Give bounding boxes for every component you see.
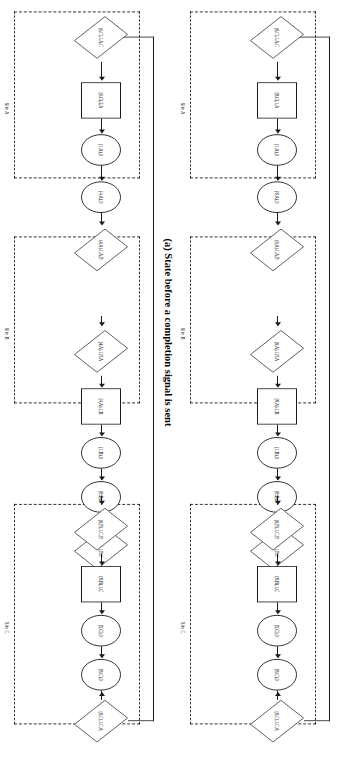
node-label: (6,C),1,A,C — [78, 13, 124, 62]
node-b-circle-1: (1,B),0 — [257, 437, 297, 468]
node-label: (8,C),1,A,C — [254, 13, 300, 62]
node-c-exit-diamond: (8,C),1,C,A — [78, 696, 124, 745]
node-a-circle-2: (4,A),0 — [81, 181, 121, 212]
node-c-rect: (8,B),1,C — [257, 566, 297, 602]
node-a-rect: (6,C),2,A — [81, 82, 121, 118]
edge-arrow — [275, 76, 281, 80]
edge-arrow — [275, 432, 281, 436]
edge-arrow — [275, 383, 281, 387]
edge-arrow — [99, 76, 105, 80]
node-b-entry-diamond: (4,A),1,B,A — [78, 326, 124, 375]
node-a-circle-1: (1,A),0 — [81, 134, 121, 165]
node-a-entry-diamond: (8,C),1,A,C — [254, 13, 300, 62]
edge-arrow — [275, 476, 281, 480]
edge-arrow — [275, 500, 281, 504]
node-b-rect: (4,A),1,B — [81, 388, 121, 424]
node-c-entry-diamond: (8,B),1,C,B — [78, 504, 124, 553]
node-label: (8,C),1,C,A — [78, 696, 124, 745]
node-c-circle-1: (5,C),0 — [81, 614, 121, 645]
node-a-rect: (8,C),1,A — [257, 82, 297, 118]
site-c-label: Site C — [180, 622, 186, 634]
site-c-label: Site C — [4, 622, 10, 634]
figure-canvas: Site A Site B Site C (8,C),1,A,C (8,C),1… — [0, 0, 342, 771]
edge-arrow — [99, 432, 105, 436]
node-a-entry-diamond: (6,C),1,A,C — [78, 13, 124, 62]
edge-arrow — [99, 322, 105, 326]
state-diagram-bottom: Site A Site B Site C (6,C),1,A,C (6,C),2… — [0, 0, 160, 771]
state-diagram-top: Site A Site B Site C (8,C),1,A,C (8,C),1… — [176, 0, 336, 771]
node-label: (4,A),1,A,B — [78, 225, 124, 274]
node-c-circle-1: (5,C),0 — [257, 614, 297, 645]
edge-arrow — [275, 692, 281, 696]
edge-arrow — [275, 129, 281, 133]
feedback-loop-right — [128, 720, 154, 721]
figure-caption: (a) State before a completion signal is … — [163, 238, 174, 426]
node-label: (8,B),1,C,B — [254, 504, 300, 553]
node-b-rect: (8,A),1,B — [257, 388, 297, 424]
node-a-exit-diamond: (8,A),1,A,B — [254, 225, 300, 274]
node-b-entry-diamond: (8,A),1,B,A — [254, 326, 300, 375]
edge-arrow — [99, 500, 105, 504]
site-a-label: Site A — [180, 102, 186, 114]
edge-arrow — [275, 322, 281, 326]
edge-arrow — [99, 129, 105, 133]
node-c-entry-diamond: (8,B),1,C,B — [254, 504, 300, 553]
edge-arrow — [99, 176, 105, 180]
node-c-exit-diamond: (8,C),1,C,A — [254, 696, 300, 745]
node-label: (8,C),1,C,A — [254, 696, 300, 745]
node-a-circle-1: (1,A),0 — [257, 134, 297, 165]
feedback-loop-top — [153, 36, 154, 720]
node-label: (4,A),1,B,A — [78, 326, 124, 375]
edge-arrow — [275, 610, 281, 614]
edge-arrow — [99, 561, 105, 565]
node-c-circle-2: (8,C),0 — [257, 658, 297, 689]
edge-arrow — [99, 692, 105, 696]
edge-arrow — [275, 654, 281, 658]
node-c-rect: (8,B),1,C — [81, 566, 121, 602]
node-b-circle-1: (1,B),0 — [81, 437, 121, 468]
edge-arrow — [99, 221, 105, 225]
node-label: (8,A),1,A,B — [254, 225, 300, 274]
node-label: (8,A),1,B,A — [254, 326, 300, 375]
node-a-exit-diamond: (4,A),1,A,B — [78, 225, 124, 274]
edge-arrow — [99, 476, 105, 480]
edge-arrow — [99, 383, 105, 387]
node-c-circle-2: (8,C),0 — [81, 658, 121, 689]
feedback-loop-top — [329, 36, 330, 720]
site-a-label: Site A — [4, 102, 10, 114]
edge-arrow — [99, 610, 105, 614]
edge-arrow — [99, 654, 105, 658]
edge-arrow — [275, 176, 281, 180]
node-label: (8,B),1,C,B — [78, 504, 124, 553]
edge-arrow — [275, 221, 281, 225]
feedback-loop-right — [304, 720, 330, 721]
node-a-circle-2: (8,A),0 — [257, 181, 297, 212]
edge-arrow — [275, 561, 281, 565]
site-b-label: Site B — [180, 327, 186, 339]
site-b-label: Site B — [4, 327, 10, 339]
